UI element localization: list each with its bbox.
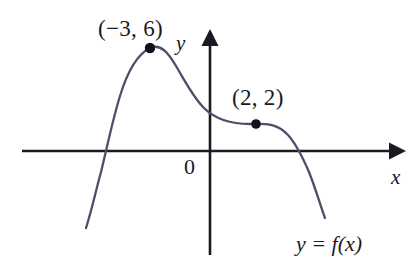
label-function-equation: y = f(x) <box>296 233 362 255</box>
point-marker-maximum <box>145 43 155 53</box>
label-origin: 0 <box>184 156 195 178</box>
y-axis-arrowhead-icon <box>202 29 219 46</box>
function-graph-figure: (−3, 6) y (2, 2) 0 x y = f(x) <box>0 0 419 268</box>
label-y-axis: y <box>176 33 185 54</box>
function-curve <box>86 47 325 228</box>
x-axis <box>22 143 406 160</box>
label-maximum-point: (−3, 6) <box>98 17 163 40</box>
label-inflection-point: (2, 2) <box>232 86 284 109</box>
label-x-axis: x <box>391 167 400 188</box>
graph-canvas <box>0 0 419 268</box>
y-axis <box>202 29 219 255</box>
x-axis-arrowhead-icon <box>389 143 406 160</box>
point-marker-inflection <box>251 119 261 129</box>
